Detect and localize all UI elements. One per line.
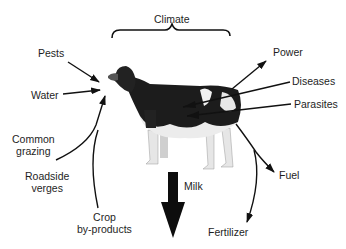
water-label: Water — [31, 89, 59, 101]
power-label: Power — [273, 46, 303, 58]
fuel-arrow — [236, 124, 274, 172]
pests-arrow — [68, 62, 99, 82]
fertilizer-arrow — [247, 150, 257, 222]
pests-label: Pests — [38, 47, 64, 59]
crop-byproducts-label: Crop by-products — [77, 211, 132, 235]
roadside-verges-label: Roadside verges — [25, 170, 69, 194]
climate-brace — [112, 24, 230, 38]
fertilizer-label: Fertilizer — [208, 226, 248, 238]
common-grazing-label: Common grazing — [12, 133, 55, 157]
crop-byproducts-arrow — [93, 130, 98, 208]
common-grazing-arrow — [56, 96, 105, 160]
water-arrow — [63, 90, 100, 94]
milk-label: Milk — [184, 180, 203, 192]
climate-label: Climate — [154, 13, 190, 25]
cow-resource-diagram: Climate Pests Water Common grazing Roads… — [0, 0, 346, 249]
cow-icon — [108, 66, 241, 169]
parasites-label: Parasites — [294, 98, 338, 110]
milk-arrow — [161, 172, 185, 238]
diseases-label: Diseases — [292, 75, 335, 87]
power-arrow — [232, 61, 266, 89]
diagram-graphics — [0, 0, 346, 249]
fuel-label: Fuel — [279, 169, 299, 181]
